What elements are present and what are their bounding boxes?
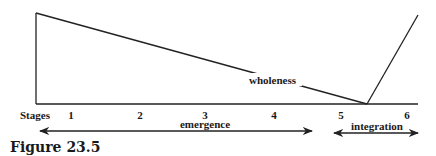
stage-tick-6: 6 (404, 109, 410, 121)
stage-tick-4: 4 (271, 109, 277, 121)
stage-tick-5: 5 (338, 109, 344, 121)
stage-tick-2: 2 (137, 109, 143, 121)
stage-tick-1: 1 (68, 109, 74, 121)
wholeness-ascending-line (367, 15, 418, 104)
stages-axis-label: Stages (20, 109, 51, 121)
figure-caption: Figure 23.5 (10, 139, 100, 155)
emergence-label: emergence (180, 118, 230, 130)
wholeness-label: wholeness (249, 74, 297, 86)
wholeness-diagram: wholeness Stages 1 2 3 4 5 6 emergence i… (0, 0, 436, 156)
integration-label: integration (351, 120, 403, 132)
wholeness-descending-line (36, 13, 367, 104)
